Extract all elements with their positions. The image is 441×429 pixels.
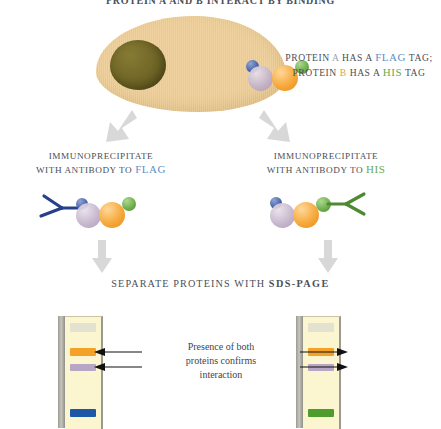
- annotation-arrow-left-lower-icon: [94, 358, 142, 368]
- step-right-his-tag: HIS: [366, 163, 385, 175]
- interaction-annotation: Presence of both proteins confirms inter…: [140, 340, 302, 382]
- legend-text: PROTEIN A HAS A FLAG TAG; PROTEIN B HAS …: [278, 50, 440, 80]
- annotation-line-3: interaction: [140, 368, 302, 382]
- protein-b-sphere: [293, 202, 319, 228]
- sds-caption-prefix: SEPARATE PROTEINS WITH: [111, 278, 268, 289]
- his-antibody-band: [308, 409, 334, 417]
- nucleus: [110, 40, 166, 90]
- well-band: [70, 323, 96, 332]
- step-caption-right: IMMUNOPRECIPITATE WITH ANTIBODY TO HIS: [226, 150, 426, 176]
- step-caption-left: IMMUNOPRECIPITATE WITH ANTIBODY TO FLAG: [6, 150, 196, 176]
- legend-protein-a-prefix: PROTEIN: [285, 52, 332, 63]
- immunoprecipitate-complex-right: [266, 190, 396, 236]
- well-band: [308, 323, 334, 332]
- cell-diagram: [96, 16, 286, 112]
- branch-arrow-right-icon: [258, 106, 298, 148]
- step-left-line2-prefix: WITH ANTIBODY TO: [36, 165, 135, 175]
- step-left-line-1: IMMUNOPRECIPITATE: [6, 150, 196, 163]
- step-right-line-1: IMMUNOPRECIPITATE: [226, 150, 426, 163]
- legend-his-tag: HIS: [383, 66, 402, 78]
- sds-page-label: SDS-PAGE: [269, 278, 330, 289]
- protein-a-sphere: [270, 203, 295, 228]
- branch-arrow-left-icon: [98, 106, 138, 148]
- annotation-line-1: Presence of both: [140, 340, 302, 354]
- protein-b-sphere: [99, 202, 125, 228]
- gel-lane-flag: [58, 316, 108, 428]
- protein-a-sphere: [76, 203, 101, 228]
- protein-a-sphere: [248, 66, 273, 91]
- protein-a-band: [70, 364, 96, 371]
- flag-antibody-band: [70, 409, 96, 417]
- step-left-flag-tag: FLAG: [135, 163, 166, 175]
- gel-edge: [58, 316, 65, 428]
- page-title: PROTEIN A AND B INTERACT BY BINDING: [0, 0, 441, 6]
- legend-protein-b-prefix: PROTEIN: [292, 67, 339, 78]
- annotation-arrow-left-upper-icon: [94, 343, 142, 353]
- legend-flag-tag: FLAG: [375, 51, 406, 63]
- page-title-text: PROTEIN A AND B INTERACT BY BINDING: [106, 0, 335, 6]
- gel-lane-body: [303, 316, 341, 429]
- step-right-line-2: WITH ANTIBODY TO HIS: [226, 163, 426, 177]
- gel-lane-body: [65, 316, 103, 429]
- immunoprecipitate-complex-left: [36, 190, 166, 236]
- his-tag-sphere: [122, 197, 136, 211]
- annotation-arrow-right-lower-icon: [300, 358, 348, 368]
- protein-b-band: [70, 348, 96, 356]
- legend-line-2: PROTEIN B HAS A HIS TAG: [278, 65, 440, 80]
- step-left-line-2: WITH ANTIBODY TO FLAG: [6, 163, 196, 177]
- sds-page-caption: SEPARATE PROTEINS WITH SDS-PAGE: [0, 278, 441, 291]
- legend-line1-mid: HAS A: [339, 52, 375, 63]
- legend-protein-b-label: B: [340, 67, 347, 78]
- annotation-line-2: proteins confirms: [140, 354, 302, 368]
- legend-line-1: PROTEIN A HAS A FLAG TAG;: [278, 50, 440, 65]
- annotation-arrow-right-upper-icon: [300, 343, 348, 353]
- legend-line2-post: TAG: [402, 67, 425, 78]
- down-arrow-right-icon: [318, 240, 338, 274]
- step-right-line2-prefix: WITH ANTIBODY TO: [267, 165, 366, 175]
- gel-lane-his: [296, 316, 346, 428]
- legend-protein-a-label: A: [332, 52, 339, 63]
- legend-line1-post: TAG;: [406, 52, 433, 63]
- legend-line2-mid: HAS A: [347, 67, 383, 78]
- down-arrow-left-icon: [92, 240, 112, 274]
